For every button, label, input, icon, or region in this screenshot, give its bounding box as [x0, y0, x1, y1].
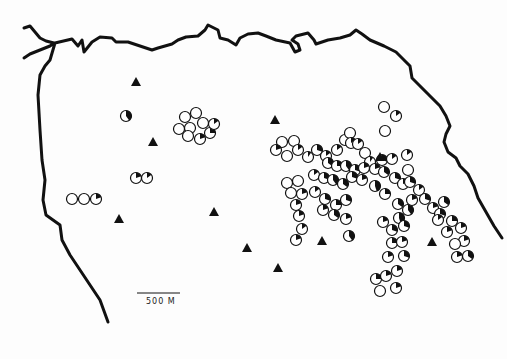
triangle-marker [273, 263, 283, 272]
site-wedge [452, 216, 458, 222]
site-circle [180, 112, 191, 123]
site-circle [379, 102, 390, 113]
map-figure: 500 M [0, 0, 507, 359]
site-circle [293, 176, 304, 187]
site-circle [282, 151, 293, 162]
site-circle [282, 178, 293, 189]
site-symbols [67, 77, 474, 297]
site-circle [345, 128, 356, 139]
triangle-marker [317, 236, 327, 245]
triangle-marker [242, 243, 252, 252]
triangle-marker [270, 115, 280, 124]
triangle-marker [427, 237, 437, 246]
site-circle [286, 188, 297, 199]
site-circle [67, 194, 78, 205]
triangle-marker [131, 77, 141, 86]
scale-label: 500 M [146, 297, 176, 306]
site-wedge [385, 189, 391, 195]
triangle-marker [209, 207, 219, 216]
site-circle [450, 239, 461, 250]
site-circle [191, 108, 202, 119]
coastline [24, 25, 502, 322]
site-circle [79, 194, 90, 205]
site-circle [198, 118, 209, 129]
site-circle [403, 165, 414, 176]
triangle-marker [148, 137, 158, 146]
site-circle [183, 131, 194, 142]
map-canvas [0, 0, 507, 359]
site-circle [380, 126, 391, 137]
site-circle [375, 286, 386, 297]
triangle-marker [114, 214, 124, 223]
